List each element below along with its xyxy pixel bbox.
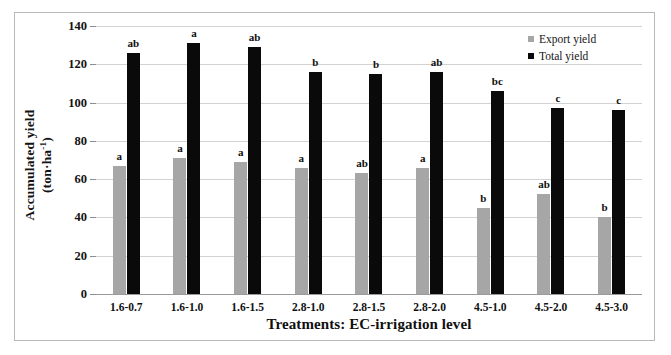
significance-letter: a [177, 142, 183, 154]
y-axis-title-line2: (ton·ha-1) [38, 109, 56, 220]
y-axis-title-container: Accumulated yield (ton·ha-1) [22, 40, 56, 290]
x-axis-title: Treatments: EC-irrigation level [96, 316, 642, 333]
significance-letter: c [616, 94, 621, 106]
bar-export-yield[interactable] [537, 194, 550, 294]
significance-letter: c [556, 92, 561, 104]
x-tick-label: 4.5-1.0 [474, 301, 507, 313]
bar-export-yield[interactable] [173, 158, 186, 294]
y-axis-title-unit: (ton·ha [40, 150, 55, 193]
bar-group: bbc4.5-1.0 [460, 26, 521, 294]
bar-group: aab1.6-1.5 [217, 26, 278, 294]
bar-total-yield[interactable] [248, 47, 261, 294]
x-tick-label: 1.6-0.7 [110, 301, 143, 313]
significance-letter: a [238, 146, 244, 158]
bar-export-yield[interactable] [416, 168, 429, 294]
significance-letter: bc [492, 75, 503, 87]
significance-letter: a [420, 152, 426, 164]
bar-export-yield[interactable] [234, 162, 247, 294]
bar-group: abc4.5-2.0 [521, 26, 582, 294]
significance-letter: ab [356, 157, 368, 169]
bar-export-yield[interactable] [113, 166, 126, 294]
y-tick-label: 140 [68, 19, 87, 34]
bar-total-yield[interactable] [551, 108, 564, 294]
y-axis-title: Accumulated yield (ton·ha-1) [22, 109, 56, 220]
bar-group: abb2.8-1.5 [339, 26, 400, 294]
x-tick-label: 2.8-1.5 [353, 301, 386, 313]
bar-group: aab2.8-2.0 [399, 26, 460, 294]
x-tick-label: 1.6-1.5 [231, 301, 264, 313]
significance-letter: ab [249, 31, 261, 43]
x-tick-label: 4.5-2.0 [535, 301, 568, 313]
bar-total-yield[interactable] [369, 74, 382, 294]
gridline-0 [96, 294, 642, 295]
legend-item[interactable]: Total yield [528, 48, 596, 63]
y-tick-label: 100 [68, 95, 87, 110]
y-tick-label: 20 [75, 248, 88, 263]
bar-group: aa1.6-1.0 [157, 26, 218, 294]
plot-area: 020406080100120140aab1.6-0.7aa1.6-1.0aab… [96, 26, 642, 294]
significance-letter: b [312, 56, 318, 68]
legend-item[interactable]: Export yield [528, 31, 596, 46]
bar-export-yield[interactable] [355, 173, 368, 294]
x-tick-label: 4.5-3.0 [595, 301, 628, 313]
y-axis-title-line1: Accumulated yield [22, 109, 37, 220]
y-tick-label: 80 [75, 133, 88, 148]
chart-legend: Export yieldTotal yield [528, 31, 596, 65]
y-axis-title-paren: ) [40, 137, 55, 142]
significance-letter: b [602, 201, 608, 213]
y-tick-label: 0 [81, 287, 87, 302]
bar-group: aab1.6-0.7 [96, 26, 157, 294]
bar-total-yield[interactable] [612, 110, 625, 294]
y-axis-title-exponent: -1 [38, 142, 48, 150]
significance-letter: ab [538, 178, 550, 190]
bar-total-yield[interactable] [127, 53, 140, 294]
figure-canvas: Accumulated yield (ton·ha-1) 02040608010… [0, 0, 671, 355]
significance-letter: ab [431, 56, 443, 68]
y-tick-label: 120 [68, 57, 87, 72]
x-tick-label: 1.6-1.0 [171, 301, 204, 313]
x-tick-label: 2.8-1.0 [292, 301, 325, 313]
significance-letter: b [373, 58, 379, 70]
bar-group: bc4.5-3.0 [581, 26, 642, 294]
bar-group: ab2.8-1.0 [278, 26, 339, 294]
legend-swatch-icon [528, 36, 534, 42]
significance-letter: b [480, 192, 486, 204]
bar-export-yield[interactable] [477, 208, 490, 294]
significance-letter: ab [128, 37, 140, 49]
x-tick-label: 2.8-2.0 [413, 301, 446, 313]
bar-export-yield[interactable] [295, 168, 308, 294]
y-tick-label: 40 [75, 210, 88, 225]
significance-letter: a [299, 152, 305, 164]
significance-letter: a [191, 27, 197, 39]
bar-export-yield[interactable] [598, 217, 611, 294]
bar-total-yield[interactable] [309, 72, 322, 294]
legend-swatch-icon [528, 53, 534, 59]
legend-label: Total yield [539, 50, 588, 62]
y-tick-label: 60 [75, 172, 88, 187]
bar-total-yield[interactable] [430, 72, 443, 294]
significance-letter: a [117, 150, 123, 162]
bar-total-yield[interactable] [491, 91, 504, 294]
y-tick-mark-0 [90, 294, 96, 295]
legend-label: Export yield [539, 33, 596, 45]
bar-total-yield[interactable] [187, 43, 200, 294]
